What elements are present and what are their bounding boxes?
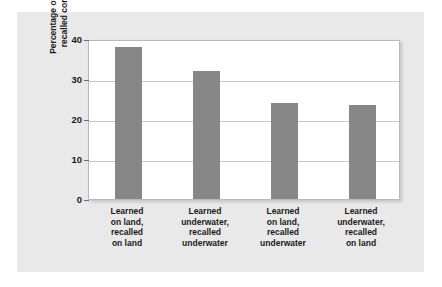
bar bbox=[349, 105, 376, 199]
x-axis-labels: Learned on land, recalled on landLearned… bbox=[88, 206, 400, 266]
y-tick-mark bbox=[84, 160, 89, 161]
y-axis-ticks: 010203040 bbox=[58, 0, 82, 287]
y-tick-mark bbox=[84, 80, 89, 81]
y-tick-label: 30 bbox=[60, 75, 82, 85]
y-tick-label: 40 bbox=[60, 35, 82, 45]
x-axis-category-label: Learned on land, recalled underwater bbox=[244, 206, 322, 266]
y-tick-mark bbox=[84, 40, 89, 41]
bar bbox=[193, 71, 220, 199]
y-tick-mark bbox=[84, 120, 89, 121]
y-tick-label: 0 bbox=[60, 195, 82, 205]
y-tick-label: 20 bbox=[60, 115, 82, 125]
bar bbox=[271, 103, 298, 199]
y-tick-label: 10 bbox=[60, 155, 82, 165]
figure-container: Percentage of words recalled correctly 0… bbox=[0, 0, 442, 287]
x-axis-category-label: Learned underwater, recalled on land bbox=[322, 206, 400, 266]
plot-area bbox=[88, 40, 400, 200]
x-axis-category-label: Learned underwater, recalled underwater bbox=[166, 206, 244, 266]
x-axis-category-label: Learned on land, recalled on land bbox=[88, 206, 166, 266]
bar-series bbox=[89, 41, 399, 199]
y-tick-mark bbox=[84, 200, 89, 201]
bar bbox=[115, 47, 142, 199]
